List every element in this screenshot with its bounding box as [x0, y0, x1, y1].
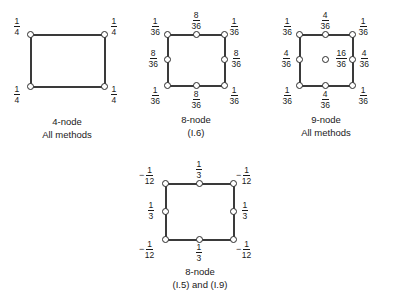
weight-label-top-mid: 4 36	[320, 11, 330, 30]
caption-line-1: 8-node	[146, 266, 254, 279]
weight-label-top-right: − 1 12	[236, 166, 251, 185]
caption-eight-node-i6: 8-node (I.6)	[143, 114, 249, 139]
caption-line-1: 4-node	[14, 116, 120, 129]
node-top-right	[349, 31, 356, 38]
weight-label-bottom-right: 1 36	[358, 86, 368, 105]
caption-line-2: All methods	[14, 129, 120, 142]
node-top-left	[162, 180, 169, 187]
weight-label-top-left: − 1 12	[139, 166, 154, 185]
node-bottom-right	[349, 82, 356, 89]
node-top-left	[164, 31, 171, 38]
weight-label-center: 16 36	[335, 49, 347, 68]
node-bottom-left	[27, 83, 34, 90]
node-bottom-left	[162, 236, 169, 243]
weight-label-bottom-right: 1 36	[229, 86, 239, 105]
weight-label-top-right: 1 36	[229, 17, 239, 36]
caption-line-2: (I.6)	[143, 127, 249, 140]
caption-line-1: 9-node	[272, 114, 380, 127]
edge-top	[30, 34, 104, 36]
weight-label-top-right: 1 36	[358, 17, 368, 36]
caption-line-2: All methods	[272, 127, 380, 140]
weight-label-bottom-right: 1 4	[110, 85, 117, 104]
node-mid-left	[296, 56, 303, 63]
weight-label-bottom-right: − 1 12	[236, 240, 251, 259]
node-mid-right	[230, 208, 237, 215]
weight-label-top-mid: 1 3	[195, 160, 202, 179]
weight-label-bottom-left: 1 36	[150, 86, 160, 105]
node-bottom-mid	[322, 82, 329, 89]
node-bottom-mid	[193, 82, 200, 89]
weight-label-top-right: 1 4	[110, 17, 117, 36]
weight-label-bottom-left: 1 36	[282, 86, 292, 105]
node-bottom-right	[221, 82, 228, 89]
caption-nine-node: 9-node All methods	[272, 114, 380, 139]
node-center	[322, 56, 329, 63]
node-top-mid	[196, 180, 203, 187]
weight-label-top-mid: 8 36	[191, 11, 201, 30]
weight-label-mid-left: 4 36	[281, 49, 291, 68]
node-top-left	[27, 31, 34, 38]
weight-label-bottom-mid: 8 36	[191, 90, 201, 109]
node-mid-right	[349, 56, 356, 63]
weight-label-mid-left: 8 36	[148, 49, 158, 68]
caption-line-1: 8-node	[143, 114, 249, 127]
weight-label-mid-right: 4 36	[359, 49, 369, 68]
node-top-left	[296, 31, 303, 38]
node-top-mid	[193, 31, 200, 38]
edge-left	[30, 34, 32, 86]
weight-label-bottom-mid: 1 3	[195, 243, 202, 262]
weight-label-bottom-left: 1 4	[13, 85, 20, 104]
node-bottom-right	[101, 83, 108, 90]
node-bottom-left	[296, 82, 303, 89]
weight-label-bottom-mid: 4 36	[320, 90, 330, 109]
weight-label-mid-right: 1 3	[241, 201, 248, 220]
edge-bottom	[30, 86, 104, 88]
node-top-right	[101, 31, 108, 38]
caption-line-2: (I.5) and (I.9)	[146, 279, 254, 292]
node-top-right	[221, 31, 228, 38]
node-mid-left	[164, 56, 171, 63]
node-top-mid	[322, 31, 329, 38]
weight-label-top-left: 1 36	[282, 17, 292, 36]
caption-eight-node-i5-i9: 8-node (I.5) and (I.9)	[146, 266, 254, 291]
weight-label-top-left: 1 4	[13, 17, 20, 36]
node-mid-left	[162, 208, 169, 215]
edge-right	[104, 34, 106, 86]
weight-label-mid-right: 8 36	[231, 49, 241, 68]
node-bottom-left	[164, 82, 171, 89]
weight-label-top-left: 1 36	[150, 17, 160, 36]
node-mid-right	[221, 56, 228, 63]
caption-four-node: 4-node All methods	[14, 116, 120, 141]
weight-label-mid-left: 1 3	[147, 201, 154, 220]
weight-label-bottom-left: − 1 12	[139, 240, 154, 259]
